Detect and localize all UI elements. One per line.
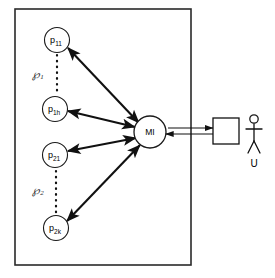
diagram-svg: p11 p1h p21 p2k ℘1 xyxy=(0,0,275,278)
user-left-leg-icon xyxy=(248,141,254,153)
client-application-box[interactable] xyxy=(213,118,239,144)
edge-p11-mediator xyxy=(68,48,139,123)
edge-p2k-mediator xyxy=(67,145,140,221)
provider-node-p1h[interactable]: p1h xyxy=(43,97,68,122)
diagram-canvas: p11 p1h p21 p2k ℘1 xyxy=(0,0,275,278)
user-actor-label: U xyxy=(250,158,257,169)
group-label-p1: ℘1 xyxy=(32,68,44,81)
mediator-node-mi-label: MI xyxy=(145,127,154,137)
user-head-icon xyxy=(250,115,258,123)
user-right-leg-icon xyxy=(254,141,260,153)
edge-p1h-mediator xyxy=(68,111,135,127)
provider-node-p2k[interactable]: p2k xyxy=(44,216,69,241)
group-label-p2: ℘2 xyxy=(32,184,44,197)
provider-node-p11[interactable]: p11 xyxy=(45,28,70,53)
provider-node-p21[interactable]: p21 xyxy=(43,143,68,168)
edge-p21-mediator xyxy=(68,138,136,151)
mediator-node-mi[interactable]: MI xyxy=(134,116,166,148)
user-actor: U xyxy=(246,115,262,169)
